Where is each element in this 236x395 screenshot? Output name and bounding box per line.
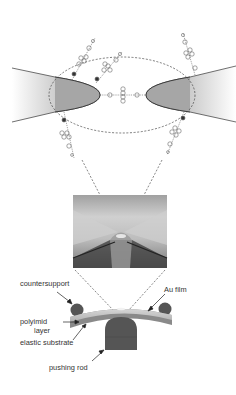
molecule-lower-left bbox=[60, 112, 74, 158]
pushing-rod-label: pushing rod bbox=[49, 364, 88, 371]
diagram-svg bbox=[0, 0, 236, 395]
right-electrode bbox=[146, 66, 236, 122]
polyimid-label-line1: polyimid bbox=[20, 318, 47, 325]
countersupport-label: countersupport bbox=[20, 280, 69, 287]
pushing-rod bbox=[105, 317, 137, 350]
bridging-molecule bbox=[100, 87, 146, 103]
left-electrode bbox=[12, 68, 100, 122]
molecule-upper-left-2 bbox=[95, 52, 122, 83]
molecule-upper-right bbox=[181, 33, 197, 75]
molecule-lower-right bbox=[167, 112, 185, 155]
polyimid-label-line2: layer bbox=[34, 327, 50, 334]
diagram: countersupport polyimid layer elastic su… bbox=[0, 0, 236, 395]
projection-lines-bottom bbox=[75, 270, 165, 311]
molecule-upper-left-1 bbox=[72, 38, 95, 80]
sem-image bbox=[73, 195, 167, 268]
au-film-label: Au film bbox=[164, 286, 187, 293]
elastic-substrate-label: elastic substrate bbox=[20, 339, 73, 346]
